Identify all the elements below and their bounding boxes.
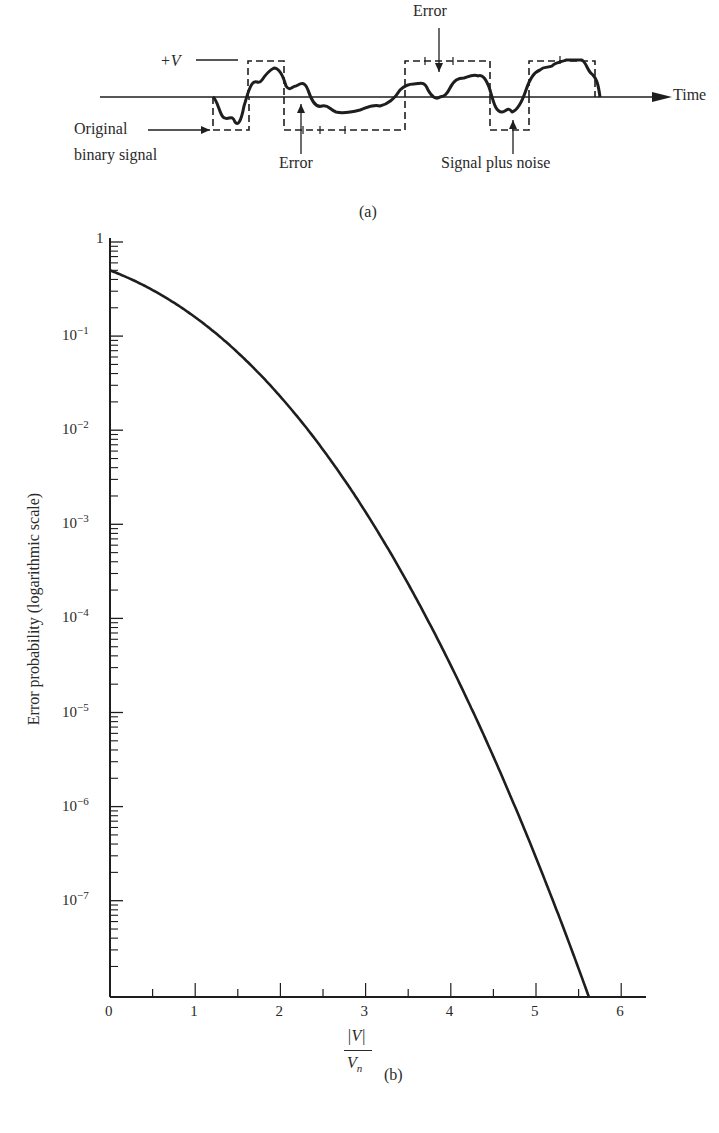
x-tick-label: 4 xyxy=(446,1003,454,1020)
y-axis-label: Error probability (logarithmic scale) xyxy=(25,469,43,749)
error-bottom-arrow-arrowhead-icon xyxy=(297,104,305,113)
y-tick-label: 10−6 xyxy=(62,795,89,815)
y-tick-label: 10−3 xyxy=(62,512,89,532)
plus-v-label: +V xyxy=(160,52,181,70)
x-axis-fraction-bar xyxy=(344,1050,372,1051)
y-tick-label: 10−4 xyxy=(62,606,89,626)
y-tick-label: 10−2 xyxy=(62,418,89,438)
binary-signal-box-1 xyxy=(248,61,284,97)
x-tick-label: 1 xyxy=(190,1003,198,1020)
original-signal-label-1: Original xyxy=(74,120,127,138)
error-top-arrow-arrowhead-icon xyxy=(435,63,443,72)
x-tick-label: 6 xyxy=(616,1003,624,1020)
signal-noise-arrow-arrowhead-icon xyxy=(509,120,517,129)
denominator-subscript: n xyxy=(357,1062,363,1074)
part-a-label: (a) xyxy=(359,203,377,221)
signal-plus-noise-label: Signal plus noise xyxy=(441,154,550,172)
error-probability-curve xyxy=(110,270,589,996)
figure-canvas xyxy=(0,0,719,1133)
x-axis-label-numerator: |V| xyxy=(347,1027,366,1045)
original-signal-arrow-arrowhead-icon xyxy=(201,126,210,134)
y-tick-label: 1 xyxy=(96,230,104,247)
part-b-label: (b) xyxy=(384,1066,403,1084)
x-tick-label: 2 xyxy=(275,1003,283,1020)
error-label-top: Error xyxy=(413,2,447,20)
time-label: Time xyxy=(673,86,706,104)
binary-signal-box-4 xyxy=(490,97,529,130)
x-tick-label: 3 xyxy=(361,1003,369,1020)
x-tick-label: 0 xyxy=(105,1003,113,1020)
y-tick-label: 10−5 xyxy=(62,701,89,721)
time-axis-arrow-icon xyxy=(652,92,672,102)
y-tick-label: 10−1 xyxy=(62,324,89,344)
x-axis-label-denominator: Vn xyxy=(347,1054,362,1074)
denominator-v: V xyxy=(347,1054,357,1071)
x-tick-label: 5 xyxy=(531,1003,539,1020)
signal-plus-noise-trace xyxy=(213,60,600,123)
y-tick-label: 10−7 xyxy=(62,889,89,909)
original-signal-label-2: binary signal xyxy=(74,146,157,164)
error-label-bottom: Error xyxy=(279,154,313,172)
